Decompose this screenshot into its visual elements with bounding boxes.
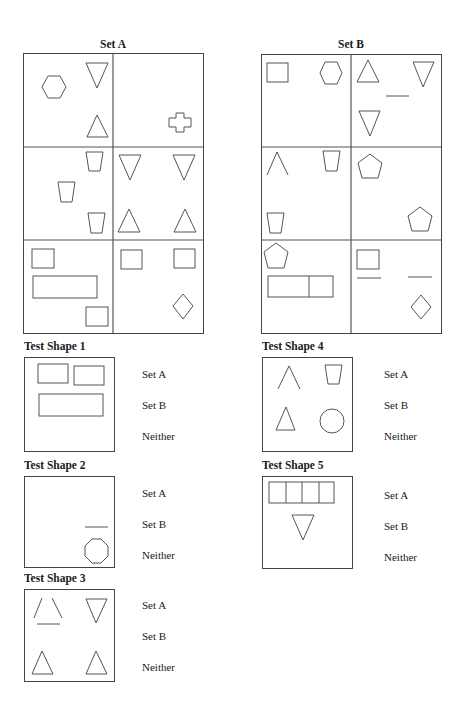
set-b-title: Set B bbox=[261, 38, 441, 50]
test-4-option-set-a[interactable]: Set A bbox=[384, 368, 408, 380]
test-shape-4-label: Test Shape 4 bbox=[262, 340, 324, 352]
test-2-option-neither[interactable]: Neither bbox=[142, 549, 175, 561]
test-shape-2-label: Test Shape 2 bbox=[24, 459, 86, 471]
test-4-option-set-b[interactable]: Set B bbox=[384, 399, 408, 411]
test-3-option-set-b[interactable]: Set B bbox=[142, 630, 166, 642]
test-1-option-set-b[interactable]: Set B bbox=[142, 399, 166, 411]
test-shape-1-label: Test Shape 1 bbox=[24, 340, 86, 352]
test-shape-5-box bbox=[262, 476, 353, 569]
test-shape-2-box bbox=[24, 476, 115, 568]
test-1-option-set-a[interactable]: Set A bbox=[142, 368, 166, 380]
set-b-grid bbox=[261, 54, 442, 334]
test-4-option-neither[interactable]: Neither bbox=[384, 430, 417, 442]
test-5-option-set-b[interactable]: Set B bbox=[384, 520, 408, 532]
test-5-option-neither[interactable]: Neither bbox=[384, 551, 417, 563]
test-shape-4-box bbox=[262, 357, 353, 452]
test-1-option-neither[interactable]: Neither bbox=[142, 430, 175, 442]
set-a-grid bbox=[23, 53, 204, 334]
set-a-title: Set A bbox=[23, 38, 203, 50]
test-3-option-set-a[interactable]: Set A bbox=[142, 599, 166, 611]
test-5-option-set-a[interactable]: Set A bbox=[384, 489, 408, 501]
test-shape-1-box bbox=[24, 357, 115, 452]
test-3-option-neither[interactable]: Neither bbox=[142, 661, 175, 673]
test-shape-5-label: Test Shape 5 bbox=[262, 459, 324, 471]
test-shape-3-label: Test Shape 3 bbox=[24, 572, 86, 584]
test-2-option-set-b[interactable]: Set B bbox=[142, 518, 166, 530]
test-2-option-set-a[interactable]: Set A bbox=[142, 487, 166, 499]
test-shape-3-box bbox=[24, 589, 115, 682]
